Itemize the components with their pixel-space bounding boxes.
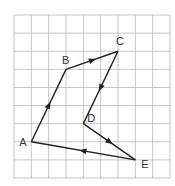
arrow-head-icon — [88, 56, 97, 64]
point-label-E: E — [141, 158, 148, 170]
point-label-C: C — [116, 35, 124, 47]
grid — [14, 15, 170, 178]
point-label-B: B — [62, 54, 69, 66]
vector-path-diagram: ABCDE — [0, 0, 175, 186]
point-label-A: A — [19, 136, 27, 148]
point-label-D: D — [87, 112, 95, 124]
